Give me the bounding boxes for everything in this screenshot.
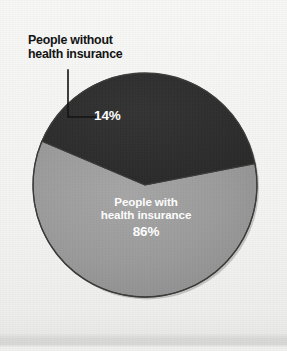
callout-label-line2: health insurance bbox=[28, 47, 122, 61]
pie-chart-figure: People without health insurance 14% Peop… bbox=[0, 0, 287, 351]
callout-label-without-insurance: People without health insurance bbox=[28, 33, 122, 62]
slice-value-label-86-percent: 86% bbox=[98, 224, 194, 239]
slice-label-with-insurance: People with health insurance bbox=[98, 195, 194, 221]
slice-label-with-insurance-line1: People with bbox=[98, 195, 194, 208]
slice-label-with-insurance-line2: health insurance bbox=[98, 208, 194, 221]
slice-value-label-14-percent: 14% bbox=[94, 108, 121, 123]
callout-label-line1: People without bbox=[28, 33, 122, 47]
